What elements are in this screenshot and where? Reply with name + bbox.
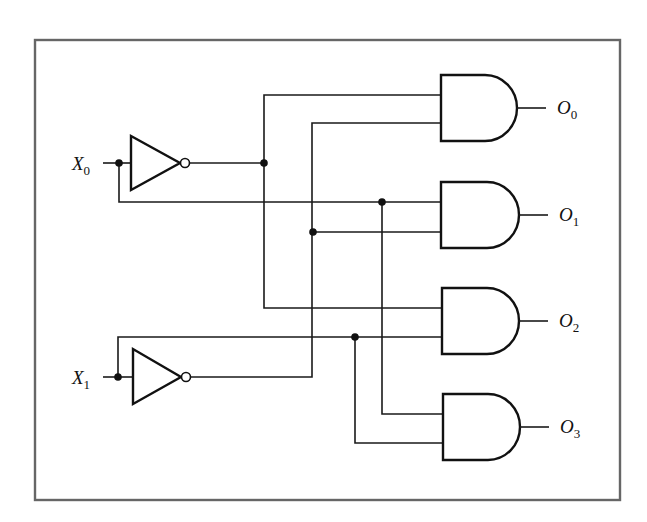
and-gate-icon bbox=[441, 182, 519, 248]
and-gate-icon bbox=[442, 288, 519, 354]
junction-dot bbox=[378, 198, 386, 206]
junction-dot bbox=[309, 228, 317, 236]
inversion-bubble-icon bbox=[181, 159, 190, 168]
and-gate-icon bbox=[441, 75, 517, 141]
junction-dot bbox=[115, 159, 123, 167]
decoder-circuit-diagram: X0 X1 O0 O1 O2 O3 bbox=[0, 0, 647, 522]
inversion-bubble-icon bbox=[182, 373, 191, 382]
junction-dot bbox=[260, 159, 268, 167]
junction-dot bbox=[114, 373, 122, 381]
junction-dot bbox=[351, 333, 359, 341]
diagram-frame bbox=[35, 40, 620, 500]
and-gate-icon bbox=[443, 394, 520, 460]
